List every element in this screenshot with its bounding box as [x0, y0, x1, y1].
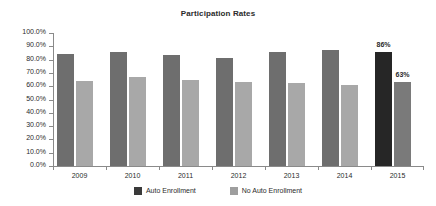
x-axis-category-label: 2014	[318, 167, 371, 181]
bar[interactable]	[269, 52, 286, 166]
x-axis-tick-mark	[318, 167, 319, 170]
bar-groups: 86%63%	[53, 33, 424, 166]
y-axis-tick-label: 80.0%	[26, 55, 46, 63]
bar[interactable]	[57, 54, 74, 166]
y-axis-tick-label: 0.0%	[30, 161, 46, 169]
bar[interactable]	[288, 83, 305, 166]
bar-group	[106, 33, 159, 166]
y-axis-tick-label: 40.0%	[26, 108, 46, 116]
y-axis-tick-label: 10.0%	[26, 148, 46, 156]
bar-value-label: 86%	[376, 41, 390, 49]
legend-swatch-icon	[134, 187, 142, 195]
y-axis-tick-label: 70.0%	[26, 68, 46, 76]
x-axis-tick-mark	[159, 167, 160, 170]
bar[interactable]	[110, 52, 127, 166]
bar[interactable]	[163, 55, 180, 166]
legend-item[interactable]: Auto Enrollment	[134, 186, 196, 195]
bar-group	[159, 33, 212, 166]
x-axis-tick-mark	[212, 167, 213, 170]
legend-label: No Auto Enrollment	[242, 186, 302, 195]
bar[interactable]	[182, 80, 199, 166]
y-axis-tick-label: 30.0%	[26, 121, 46, 129]
legend-label: Auto Enrollment	[146, 186, 196, 195]
x-axis-category-label: 2015	[371, 167, 424, 181]
bar[interactable]: 63%	[394, 82, 411, 166]
y-axis-tick-label: 50.0%	[26, 95, 46, 103]
x-axis-category-label: 2013	[265, 167, 318, 181]
x-axis-tick-mark	[106, 167, 107, 170]
y-axis-tick-label: 90.0%	[26, 41, 46, 49]
x-axis-tick-mark	[265, 167, 266, 170]
chart-legend: Auto EnrollmentNo Auto Enrollment	[0, 186, 436, 195]
y-axis-tick-label: 100.0%	[22, 28, 46, 36]
bar[interactable]	[341, 85, 358, 166]
bar[interactable]: 86%	[375, 52, 392, 166]
y-axis-tick-label: 60.0%	[26, 81, 46, 89]
x-axis-tick-mark	[423, 167, 424, 170]
x-axis-category-label: 2012	[212, 167, 265, 181]
bar-group: 86%63%	[371, 33, 424, 166]
bar[interactable]	[216, 58, 233, 166]
x-axis-category-label: 2009	[53, 167, 106, 181]
x-axis-tick-mark	[53, 167, 54, 170]
chart-title: Participation Rates	[0, 9, 436, 18]
legend-item[interactable]: No Auto Enrollment	[230, 186, 302, 195]
bar-value-label: 63%	[395, 71, 409, 79]
y-axis: 100.0%90.0%80.0%70.0%60.0%50.0%40.0%30.0…	[0, 33, 53, 167]
bar[interactable]	[322, 50, 339, 166]
legend-swatch-icon	[230, 187, 238, 195]
bar[interactable]	[235, 82, 252, 166]
x-axis-tick-mark	[371, 167, 372, 170]
x-axis-category-label: 2011	[159, 167, 212, 181]
y-axis-tick-label: 20.0%	[26, 134, 46, 142]
bar[interactable]	[76, 81, 93, 166]
bar-group	[212, 33, 265, 166]
bar-group	[318, 33, 371, 166]
x-axis: 2009201020112012201320142015	[53, 167, 424, 181]
x-axis-category-label: 2010	[106, 167, 159, 181]
bar-group	[265, 33, 318, 166]
bar[interactable]	[129, 77, 146, 166]
bar-group	[53, 33, 106, 166]
participation-rates-chart: Participation Rates 100.0%90.0%80.0%70.0…	[0, 0, 436, 206]
